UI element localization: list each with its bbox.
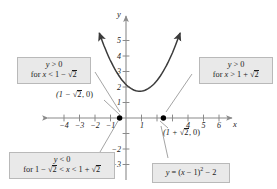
equation-line: y = (x − 1)2 − 2 bbox=[156, 168, 226, 178]
callout-positive-right-line1: y > 0 bbox=[203, 60, 269, 70]
x-tick-label-neg1: −1 bbox=[103, 121, 119, 130]
y-axis-label: y bbox=[117, 9, 121, 19]
callout-positive-left-line2: for x < 1 − √2 bbox=[21, 70, 87, 80]
x-tick-label-neg4: −4 bbox=[56, 121, 72, 130]
callout-positive-left-line1: y > 0 bbox=[21, 60, 87, 70]
point-label-left-root: (1 − √2, 0) bbox=[56, 90, 93, 99]
callout-negative-line2: for 1 − √2 < x < 1 + √2 bbox=[13, 165, 111, 175]
callout-tr-radicand: 2 bbox=[254, 70, 259, 79]
callout-tr-rel: > 0 bbox=[233, 60, 244, 69]
point-left-close: , 0) bbox=[82, 90, 93, 99]
callout-bl-for: for 1 − bbox=[23, 165, 48, 174]
callout-negative-line1: y < 0 bbox=[13, 155, 111, 165]
x-tick-label-6: 6 bbox=[211, 121, 227, 130]
callout-bl-ineq: < 1 + bbox=[70, 165, 92, 174]
callout-positive-left: y > 0 for x < 1 − √2 bbox=[17, 57, 91, 84]
callout-tl-y: y bbox=[46, 60, 50, 69]
point-right-open: (1 + bbox=[163, 128, 180, 137]
y-tick-label-1: 1 bbox=[109, 98, 121, 107]
leader-top-right bbox=[166, 74, 192, 112]
callout-tr-for: for bbox=[213, 70, 225, 79]
callout-tr-y: y bbox=[228, 60, 232, 69]
callout-bl-y: y bbox=[54, 155, 58, 164]
callout-tr-ineq: > 1 + bbox=[228, 70, 250, 79]
callout-bl-rel: < 0 bbox=[59, 155, 70, 164]
callout-tl-rel: > 0 bbox=[51, 60, 62, 69]
callout-tl-radicand: 2 bbox=[72, 70, 77, 79]
equation-tail: − 2 bbox=[203, 168, 216, 177]
callout-bl-radicand-b: 2 bbox=[96, 165, 101, 174]
x-tick-label-neg3: −3 bbox=[72, 121, 88, 130]
x-axis-label: x bbox=[233, 119, 237, 129]
y-tick-label-2: 2 bbox=[109, 83, 121, 92]
callout-positive-right-line2: for x > 1 + √2 bbox=[203, 70, 269, 80]
y-tick-label-4: 4 bbox=[109, 52, 121, 61]
point-right-close: , 0) bbox=[189, 128, 200, 137]
callout-bl-mid: < bbox=[57, 165, 66, 174]
equation-rest: − 1) bbox=[185, 168, 201, 177]
graph-figure: −4 −3 −2 −1 1 4 5 6 5 4 3 2 1 −2 −3 y x … bbox=[0, 0, 277, 189]
root-point-left bbox=[117, 115, 122, 120]
root-point-right bbox=[161, 115, 166, 120]
x-tick-label-neg2: −2 bbox=[87, 121, 103, 130]
callout-equation: y = (x − 1)2 − 2 bbox=[152, 163, 230, 183]
y-tick-label-3: 3 bbox=[109, 67, 121, 76]
y-tick-label-5: 5 bbox=[109, 36, 121, 45]
callout-positive-right: y > 0 for x > 1 + √2 bbox=[199, 57, 273, 84]
callout-tl-ineq: < 1 − bbox=[46, 70, 68, 79]
x-tick-label-1: 1 bbox=[134, 121, 150, 130]
callout-tl-for: for bbox=[31, 70, 43, 79]
point-label-right-root: (1 + √2, 0) bbox=[163, 128, 200, 137]
callout-negative-between: y < 0 for 1 − √2 < x < 1 + √2 bbox=[9, 152, 115, 179]
point-left-open: (1 − bbox=[56, 90, 73, 99]
equation-eq: = ( bbox=[169, 168, 181, 177]
